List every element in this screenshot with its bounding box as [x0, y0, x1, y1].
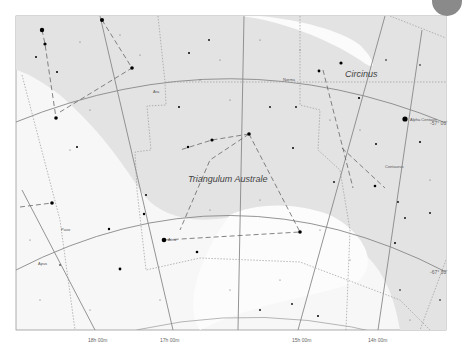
constellation-label-circinus: Circinus: [345, 69, 378, 79]
dec-label: -57° 00': [430, 120, 447, 126]
star-label-atria: Atria: [168, 237, 177, 242]
neighbor-label-apus: Apus: [38, 261, 47, 266]
neighbor-label-pavo: Pavo: [61, 227, 71, 232]
ra-label: 15h 00m: [292, 337, 311, 343]
constellation-label-triangulum-australe: Triangulum Australe: [188, 174, 268, 184]
neighbor-label-norma: Norma: [283, 77, 296, 82]
dec-label: -67° 30': [430, 269, 447, 275]
neighbor-label-ara: Ara: [153, 89, 160, 94]
ra-label: 17h 00m: [160, 337, 179, 343]
ra-label: 18h 00m: [88, 337, 107, 343]
neighbor-label-centaurus: Centaurus: [385, 164, 403, 169]
ra-label: 14h 00m: [368, 337, 387, 343]
